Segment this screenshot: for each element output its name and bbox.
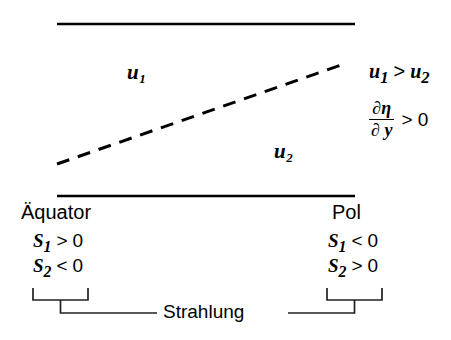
equator-s2-value: 0 bbox=[73, 255, 84, 276]
lower-layer-velocity-label: u2 bbox=[274, 141, 293, 164]
pole-s2-relation: > bbox=[352, 255, 363, 276]
inequality-operator: > bbox=[393, 60, 405, 82]
derivative-numerator: ∂η bbox=[370, 99, 393, 118]
left-bracket-stem bbox=[61, 300, 158, 313]
derivative-condition-label: ∂η ∂ y > 0 bbox=[369, 99, 428, 140]
pole-s1-subscript: 1 bbox=[339, 238, 347, 255]
equator-s1-symbol: S bbox=[33, 230, 44, 251]
right-bracket-stem bbox=[288, 300, 355, 313]
pole-s2-value: 0 bbox=[368, 255, 379, 276]
right-bracket bbox=[327, 288, 382, 300]
inequality-lhs-subscript: 1 bbox=[380, 68, 388, 87]
pole-s2-symbol: S bbox=[328, 255, 339, 276]
equator-s1-value: 0 bbox=[73, 230, 84, 251]
inequality-rhs: u bbox=[410, 60, 421, 82]
pole-s2-subscript: 2 bbox=[339, 263, 347, 280]
velocity-inequality-label: u1>u2 bbox=[369, 61, 430, 87]
equator-label: Äquator bbox=[21, 202, 91, 222]
inequality-rhs-subscript: 2 bbox=[421, 68, 429, 87]
equator-s2-subscript: 2 bbox=[44, 263, 52, 280]
pole-term-s1: S1<0 bbox=[328, 231, 378, 255]
u1-subscript: 1 bbox=[139, 71, 146, 86]
u1-symbol: u bbox=[127, 60, 139, 84]
radiation-label: Strahlung bbox=[163, 302, 244, 321]
inequality-lhs: u bbox=[369, 60, 380, 82]
pole-s1-value: 0 bbox=[368, 230, 379, 251]
equator-s1-subscript: 1 bbox=[44, 238, 52, 255]
pole-s1-symbol: S bbox=[328, 230, 339, 251]
equator-s2-relation: < bbox=[57, 255, 68, 276]
equator-s1-relation: > bbox=[57, 230, 68, 251]
interface-dashed-line bbox=[57, 63, 347, 164]
pole-s1-relation: < bbox=[352, 230, 363, 251]
derivative-denominator: ∂ y bbox=[369, 121, 394, 140]
derivative-fraction: ∂η ∂ y bbox=[369, 99, 394, 140]
equator-s2-symbol: S bbox=[33, 255, 44, 276]
pole-label: Pol bbox=[332, 202, 361, 222]
pole-term-s2: S2>0 bbox=[328, 256, 378, 280]
u2-symbol: u bbox=[274, 139, 286, 163]
upper-layer-velocity-label: u1 bbox=[127, 62, 146, 85]
diagram-vector-layer bbox=[0, 0, 451, 340]
derivative-comparison: > 0 bbox=[401, 110, 428, 129]
equator-term-s2: S2<0 bbox=[33, 256, 83, 280]
diagram-canvas: u1 u2 u1>u2 ∂η ∂ y > 0 Äquator Pol S1>0 … bbox=[0, 0, 451, 340]
u2-subscript: 2 bbox=[286, 150, 293, 165]
equator-term-s1: S1>0 bbox=[33, 231, 83, 255]
left-bracket bbox=[33, 288, 88, 300]
